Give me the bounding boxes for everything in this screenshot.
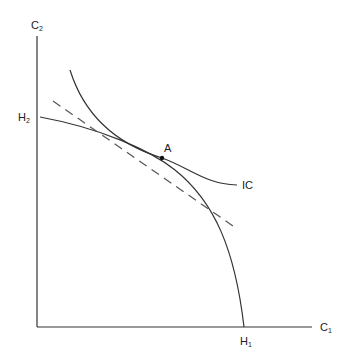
diagram-canvas (0, 0, 346, 356)
point-a-marker (160, 156, 164, 160)
tangent-line (53, 101, 233, 226)
y-axis-label: C2 (31, 20, 43, 32)
indifference-curve (70, 70, 237, 185)
h1-label: H1 (240, 336, 252, 348)
production-frontier-curve (40, 117, 244, 327)
ic-label: IC (242, 180, 253, 191)
point-a-label: A (164, 143, 171, 154)
x-axis-label: C1 (320, 322, 332, 334)
h2-label: H2 (18, 112, 30, 124)
